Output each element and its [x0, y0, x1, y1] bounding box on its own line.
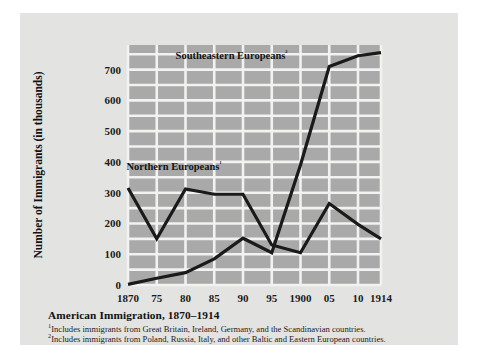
- footnote-1-text: Includes immigrants from Great Britain, …: [51, 324, 365, 334]
- figure-caption-title: American Immigration, 1870–1914: [48, 309, 456, 322]
- y-tick-label: 400: [105, 156, 122, 168]
- series-annotation-2: Northern Europeans¹: [127, 160, 222, 172]
- x-axis-tick-labels: 18707580859095190005101914: [117, 292, 393, 304]
- immigration-line-chart: 0100200300400500600700 18707580859095190…: [20, 13, 458, 345]
- caption-block: American Immigration, 1870–1914 1Include…: [48, 309, 456, 345]
- x-tick-label: 95: [266, 292, 278, 304]
- x-tick-label: 1870: [117, 292, 140, 304]
- footnote-2: 2Includes immigrants from Poland, Russia…: [48, 334, 456, 345]
- x-tick-label: 10: [353, 292, 365, 304]
- y-tick-label: 500: [105, 125, 122, 137]
- x-tick-label: 05: [324, 292, 336, 304]
- y-tick-label: 100: [105, 248, 122, 260]
- figure-card: 0100200300400500600700 18707580859095190…: [20, 13, 458, 345]
- y-tick-label: 200: [105, 217, 122, 229]
- series-annotation-1: Southeastern Europeans²: [176, 49, 288, 61]
- x-tick-label: 75: [151, 292, 163, 304]
- y-tick-label: 300: [105, 187, 122, 199]
- y-tick-label: 700: [105, 64, 122, 76]
- x-tick-label: 90: [238, 292, 250, 304]
- footnote-2-text: Includes immigrants from Poland, Russia,…: [51, 334, 386, 344]
- y-tick-label: 600: [105, 94, 122, 106]
- y-tick-label: 0: [116, 279, 122, 291]
- x-tick-label: 85: [209, 292, 221, 304]
- y-axis-title: Number of Immigrants (in thousands): [32, 71, 45, 258]
- x-tick-label: 1900: [290, 292, 313, 304]
- x-tick-label: 1914: [370, 292, 393, 304]
- x-tick-label: 80: [180, 292, 192, 304]
- chart-svg: 0100200300400500600700 18707580859095190…: [20, 13, 458, 345]
- footnote-1: 1Includes immigrants from Great Britain,…: [48, 324, 456, 335]
- y-axis-tick-labels: 0100200300400500600700: [105, 64, 122, 291]
